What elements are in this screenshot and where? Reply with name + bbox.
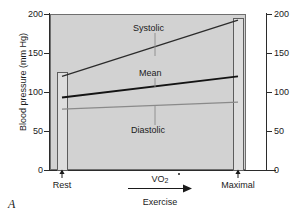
vo2-main-text: VO (152, 174, 165, 184)
y-tick-label-right-150: 150 (274, 49, 296, 58)
y-tick-left-150 (44, 53, 49, 54)
y-tick-label-right-0: 0 (274, 166, 296, 175)
y-axis-left-spine (49, 13, 50, 171)
panel-letter: A (8, 198, 15, 210)
y-tick-right-100 (267, 92, 272, 93)
vo2-dot-icon (178, 173, 180, 175)
series-label-mean: Mean (139, 69, 162, 78)
y-tick-right-150 (267, 53, 272, 54)
vo2-subscript: 2 (165, 177, 169, 184)
y-tick-label-right-100: 100 (274, 88, 296, 97)
y-axis-title: Blood pressure (mm Hg) (18, 7, 28, 157)
y-tick-left-100 (44, 92, 49, 93)
y-tick-label-right-50: 50 (274, 127, 296, 136)
y-tick-left-200 (44, 14, 49, 15)
y-tick-left-0 (44, 170, 49, 171)
range-bar-rest (57, 72, 68, 171)
plot-area (50, 14, 246, 170)
y-tick-right-0 (267, 170, 272, 171)
exercise-axis-block: VO2 Exercise (120, 174, 200, 212)
exercise-label: Exercise (120, 197, 200, 207)
y-tick-label-right-200: 200 (274, 10, 296, 19)
series-label-diastolic: Diastolic (131, 126, 165, 135)
series-label-systolic: Systolic (133, 24, 164, 33)
range-bar-maximal (233, 18, 244, 171)
y-tick-left-50 (44, 131, 49, 132)
blood-pressure-exercise-figure: 200 150 100 50 0 200 150 100 50 0 Blood … (0, 0, 296, 219)
x-label-maximal: Maximal (211, 181, 265, 190)
vo2-label: VO2 (120, 174, 200, 186)
x-label-rest: Rest (42, 181, 82, 190)
y-tick-right-50 (267, 131, 272, 132)
y-tick-label-left-0: 0 (3, 166, 43, 175)
y-tick-right-200 (267, 14, 272, 15)
